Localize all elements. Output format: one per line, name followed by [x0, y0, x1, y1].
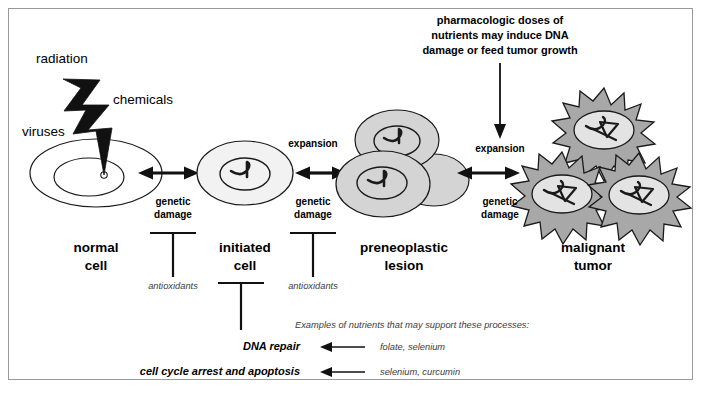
- inhibitor-label-antioxidants-1: antioxidants: [148, 281, 198, 292]
- inhibition-bar-antioxidants-1: [150, 233, 196, 277]
- pharmacologic-note-line2: nutrients may induce DNA: [431, 29, 569, 42]
- label-viruses: viruses: [22, 124, 65, 140]
- nutrient-arrow-cell-cycle-arrest: [320, 367, 365, 377]
- protective-process-nutrients-cell-cycle-arrest: selenium, curcumin: [380, 367, 460, 378]
- protective-process-label-cell-cycle-arrest: cell cycle arrest and apoptosis: [140, 365, 300, 378]
- label-radiation: radiation: [36, 51, 88, 67]
- label-chemicals: chemicals: [113, 92, 173, 108]
- transition-expansion-2: expansion: [288, 138, 337, 150]
- pharmacologic-note-line1: pharmacologic doses of: [437, 14, 564, 27]
- transition-genetic-damage-3-line2: damage: [481, 209, 519, 221]
- stage-label-preneoplastic-lesion-line2: lesion: [384, 258, 423, 274]
- protective-process-nutrients-dna-repair: folate, selenium: [380, 342, 445, 353]
- initiated-cell-shape: [197, 141, 293, 205]
- malignant-tumor-shape: [511, 88, 691, 245]
- transition-genetic-damage-1-line2: damage: [154, 209, 192, 221]
- stage-label-preneoplastic-lesion-line1: preneoplastic: [360, 240, 448, 256]
- stage-label-malignant-tumor-line2: tumor: [574, 258, 612, 274]
- stage-label-initiated-cell-line2: cell: [234, 258, 257, 274]
- inhibition-bar-dna-repair: [218, 283, 264, 330]
- transition-genetic-damage-3-line1: genetic: [482, 196, 517, 208]
- pharmacologic-note-line3: damage or feed tumor growth: [422, 44, 577, 57]
- protective-process-label-dna-repair: DNA repair: [243, 340, 300, 353]
- stage-label-normal-cell-line1: normal: [73, 240, 118, 256]
- stage-label-initiated-cell-line1: initiated: [219, 240, 271, 256]
- carcinogenesis-diagram: radiation chemicals viruses pharmacologi…: [0, 0, 702, 395]
- transition-genetic-damage-2-line2: damage: [294, 209, 332, 221]
- inhibitor-label-antioxidants-2: antioxidants: [288, 281, 338, 292]
- preneoplastic-lesion-shape: [336, 110, 469, 217]
- transition-genetic-damage-2-line1: genetic: [295, 196, 330, 208]
- pharmacologic-down-arrow: [494, 63, 506, 139]
- nutrient-arrow-dna-repair: [320, 342, 365, 352]
- diagram-graphics: [0, 0, 702, 395]
- inhibition-bar-antioxidants-2: [290, 233, 336, 277]
- nutrients-caption: Examples of nutrients that may support t…: [295, 320, 529, 331]
- stage-label-normal-cell-line2: cell: [85, 258, 108, 274]
- stage-label-malignant-tumor-line1: malignant: [561, 240, 625, 256]
- transition-expansion-3: expansion: [475, 143, 524, 155]
- transition-genetic-damage-1-line1: genetic: [155, 196, 190, 208]
